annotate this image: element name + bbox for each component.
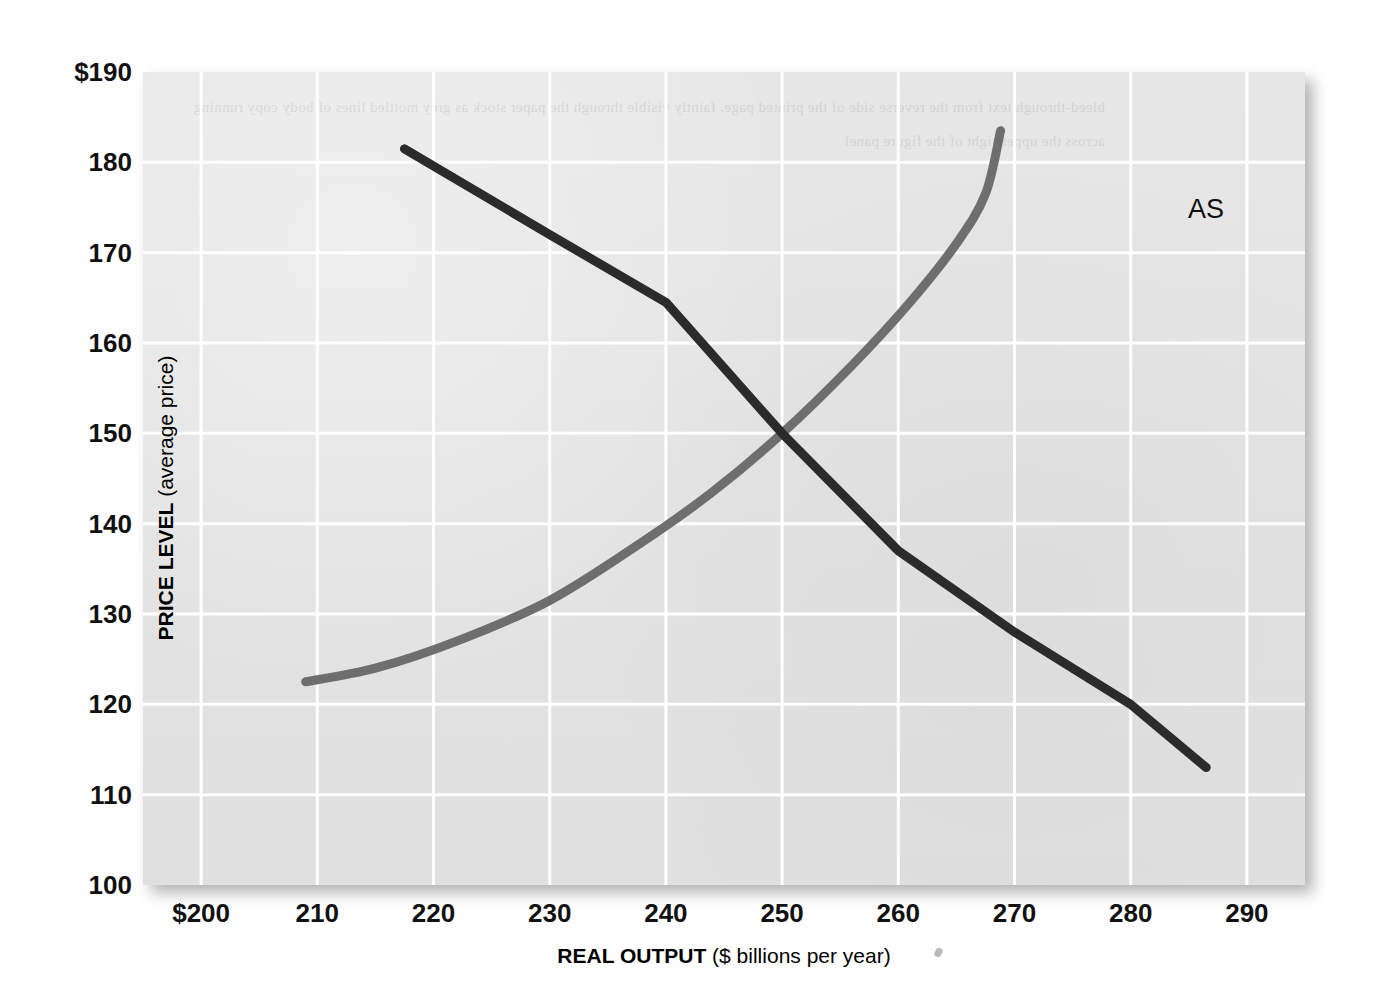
as-curve-label: AS <box>1188 194 1224 225</box>
x-axis-tick-240: 240 <box>601 898 731 929</box>
y-axis-tick-120: 120 <box>12 689 132 720</box>
y-axis-tick-150: 150 <box>12 418 132 449</box>
y-axis-tick-110: 110 <box>12 779 132 810</box>
ad-as-chart-figure: bleed-through text from the reverse side… <box>0 0 1390 996</box>
y-axis-tick-160: 160 <box>12 328 132 359</box>
as-curve <box>306 131 1001 682</box>
x-axis-tick-280: 280 <box>1066 898 1196 929</box>
y-axis-title: PRICE LEVEL (average price) <box>154 356 178 641</box>
ad1-curve <box>404 149 1206 768</box>
y-axis-tick-170: 170 <box>12 237 132 268</box>
x-axis-tick-200: $200 <box>136 898 266 929</box>
x-axis-tick-290: 290 <box>1182 898 1312 929</box>
x-axis-tick-250: 250 <box>717 898 847 929</box>
curve-layer <box>143 72 1305 885</box>
x-axis-title: REAL OUTPUT ($ billions per year) <box>143 944 1305 968</box>
y-axis-tick-130: 130 <box>12 599 132 630</box>
x-axis-tick-260: 260 <box>833 898 963 929</box>
y-axis-tick-100: 100 <box>12 870 132 901</box>
x-axis-title-strong: REAL OUTPUT <box>557 944 706 967</box>
x-axis-tick-270: 270 <box>950 898 1080 929</box>
y-axis-title-strong: PRICE LEVEL <box>154 503 177 641</box>
y-axis-tick-140: 140 <box>12 508 132 539</box>
plot-area: bleed-through text from the reverse side… <box>143 72 1305 885</box>
x-axis-tick-220: 220 <box>369 898 499 929</box>
x-axis-title-rest: ($ billions per year) <box>706 944 890 967</box>
y-axis-tick-180: 180 <box>12 147 132 178</box>
y-axis-tick-190: $190 <box>12 57 132 88</box>
y-axis-title-rest: (average price) <box>154 356 177 503</box>
x-axis-tick-210: 210 <box>252 898 382 929</box>
x-axis-tick-230: 230 <box>485 898 615 929</box>
